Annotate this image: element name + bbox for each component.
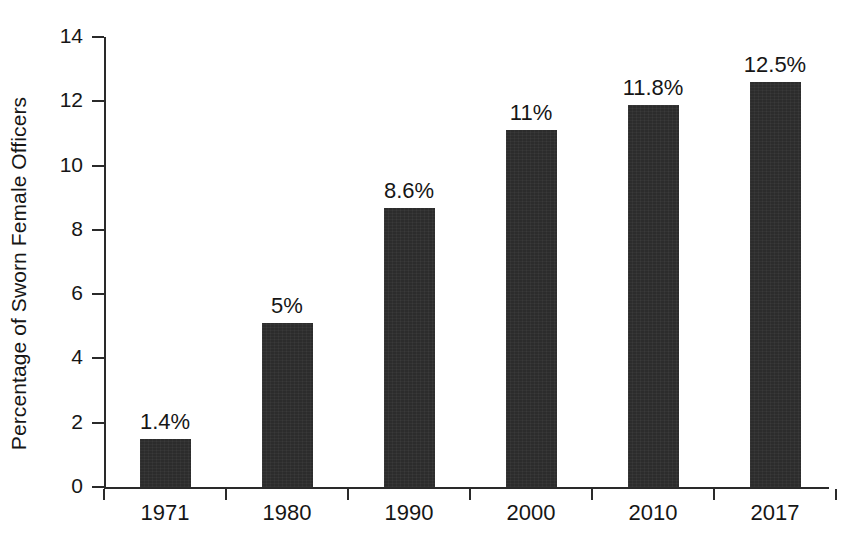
- y-axis-tick-label: 8: [18, 217, 104, 241]
- bar: [140, 439, 191, 487]
- y-axis-tick-label: 0: [18, 474, 104, 498]
- x-axis-tick: [225, 489, 227, 500]
- bar-value-label: 8.6%: [344, 178, 474, 204]
- y-axis-tick-label: 2: [18, 410, 104, 434]
- y-axis-tick-label: 4: [18, 345, 104, 369]
- bar: [628, 105, 679, 487]
- x-axis-tick: [347, 489, 349, 500]
- bar: [384, 208, 435, 487]
- x-axis-tick: [713, 489, 715, 500]
- x-axis-tick: [103, 489, 105, 500]
- x-axis-tick-label: 2010: [593, 500, 713, 526]
- bar: [506, 130, 557, 487]
- y-axis-tick-label: 10: [18, 153, 104, 177]
- bar: [750, 82, 801, 487]
- y-axis-tick-label: 14: [18, 24, 104, 48]
- bar-value-label: 11.8%: [588, 75, 718, 101]
- y-axis-tick-label: 6: [18, 281, 104, 305]
- x-axis-line: [104, 487, 829, 489]
- bar: [262, 323, 313, 487]
- bar-value-label: 5%: [222, 293, 352, 319]
- bar-value-label: 12.5%: [710, 52, 840, 78]
- x-axis-tick-label: 1980: [227, 500, 347, 526]
- y-axis-title: Percentage of Sworn Female Officers: [0, 0, 38, 547]
- bar-value-label: 1.4%: [100, 409, 230, 435]
- x-axis-tick: [591, 489, 593, 500]
- x-axis-tick-label: 1990: [349, 500, 469, 526]
- x-axis-tick-label: 2000: [471, 500, 591, 526]
- x-axis-tick-label: 1971: [105, 500, 225, 526]
- bar-value-label: 11%: [466, 100, 596, 126]
- bar-chart: Percentage of Sworn Female Officers 0246…: [0, 0, 856, 547]
- x-axis-tick: [469, 489, 471, 500]
- y-axis-tick-label: 12: [18, 88, 104, 112]
- x-axis-tick-label: 2017: [715, 500, 835, 526]
- x-axis-endcap: [835, 489, 837, 500]
